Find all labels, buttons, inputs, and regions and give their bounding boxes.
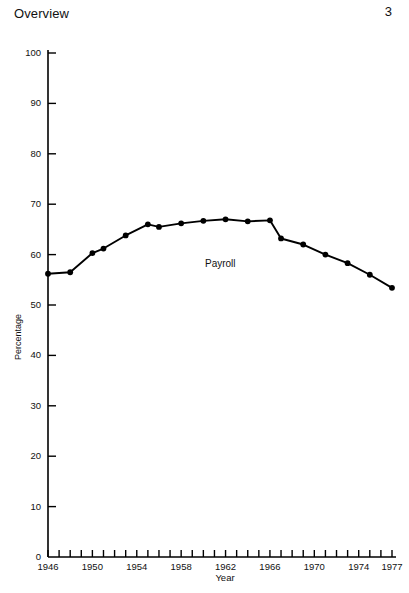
series-data-point bbox=[89, 250, 95, 256]
series-annotation-payroll: Payroll bbox=[205, 258, 236, 269]
series-data-point bbox=[300, 242, 306, 248]
y-axis-label: Percentage bbox=[13, 314, 23, 360]
series-data-point bbox=[101, 246, 107, 252]
y-axis-tick-label: 80 bbox=[15, 148, 41, 159]
y-axis-tick-label: 90 bbox=[15, 97, 41, 108]
series-data-point bbox=[200, 218, 206, 224]
y-axis-tick-label: 30 bbox=[15, 400, 41, 411]
series-data-point bbox=[223, 216, 229, 222]
y-axis-tick-label: 10 bbox=[15, 501, 41, 512]
x-axis-tick-label: 1954 bbox=[117, 561, 157, 572]
series-data-point bbox=[245, 218, 251, 224]
x-axis-tick-label: 1970 bbox=[294, 561, 334, 572]
chart-ticks bbox=[48, 53, 392, 557]
y-axis-tick-label: 60 bbox=[15, 249, 41, 260]
line-chart: 0102030405060708090100 19461950195419581… bbox=[0, 0, 409, 593]
series-data-point bbox=[267, 217, 273, 223]
chart-series-payroll bbox=[45, 216, 395, 290]
series-data-point bbox=[45, 271, 51, 277]
series-data-point bbox=[145, 221, 151, 227]
x-axis-tick-label: 1977 bbox=[372, 561, 409, 572]
y-axis-tick-label: 70 bbox=[15, 198, 41, 209]
chart-axes bbox=[48, 50, 396, 557]
series-data-point bbox=[178, 220, 184, 226]
chart-canvas bbox=[0, 0, 409, 593]
x-axis-tick-label: 1962 bbox=[206, 561, 246, 572]
series-data-point bbox=[323, 252, 329, 258]
series-data-point bbox=[367, 272, 373, 278]
series-data-point bbox=[389, 285, 395, 291]
series-data-point bbox=[345, 260, 351, 266]
series-data-point bbox=[156, 224, 162, 230]
chart-page: Overview 3 0102030405060708090100 194619… bbox=[0, 0, 409, 593]
series-data-point bbox=[123, 233, 129, 239]
x-axis-tick-label: 1966 bbox=[250, 561, 290, 572]
x-axis-label: Year bbox=[175, 572, 275, 583]
y-axis-tick-label: 20 bbox=[15, 450, 41, 461]
series-line-payroll bbox=[48, 219, 392, 288]
x-axis-tick-label: 1946 bbox=[28, 561, 68, 572]
series-data-point bbox=[278, 236, 284, 242]
x-axis-tick-label: 1950 bbox=[72, 561, 112, 572]
series-data-point bbox=[67, 269, 73, 275]
y-axis-tick-label: 100 bbox=[15, 47, 41, 58]
x-axis-tick-label: 1958 bbox=[161, 561, 201, 572]
y-axis-tick-label: 50 bbox=[15, 299, 41, 310]
